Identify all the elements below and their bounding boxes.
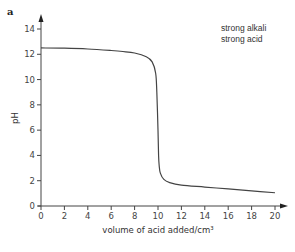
y-tick-label: 4 <box>30 150 35 160</box>
y-tick-label: 6 <box>30 125 35 135</box>
y-tick-label: 12 <box>24 49 35 59</box>
x-axis-label: volume of acid added/cm³ <box>102 225 213 235</box>
x-tick-label: 16 <box>223 211 234 221</box>
ph-curve <box>41 48 275 193</box>
x-tick-label: 14 <box>199 211 210 221</box>
y-tick-label: 0 <box>30 201 35 211</box>
x-tick-label: 0 <box>38 211 43 221</box>
annotation-strong-alkali: strong alkali <box>221 23 266 34</box>
x-axis-ticks: 02468101214161820 <box>38 206 280 221</box>
x-tick-label: 2 <box>62 211 67 221</box>
x-tick-label: 18 <box>246 211 257 221</box>
x-tick-label: 10 <box>153 211 164 221</box>
y-axis-label: pH <box>10 112 20 124</box>
x-tick-label: 4 <box>85 211 90 221</box>
y-tick-label: 8 <box>30 100 35 110</box>
y-tick-label: 2 <box>30 176 35 186</box>
y-tick-label: 10 <box>24 75 35 85</box>
annotation-strong-acid: strong acid <box>221 34 266 45</box>
x-tick-label: 6 <box>108 211 113 221</box>
y-tick-label: 14 <box>24 24 35 34</box>
x-tick-label: 20 <box>270 211 281 221</box>
x-tick-label: 8 <box>132 211 137 221</box>
x-tick-label: 12 <box>176 211 187 221</box>
y-axis-ticks: 02468101214 <box>24 24 41 211</box>
legend: strong alkali strong acid <box>221 23 266 45</box>
